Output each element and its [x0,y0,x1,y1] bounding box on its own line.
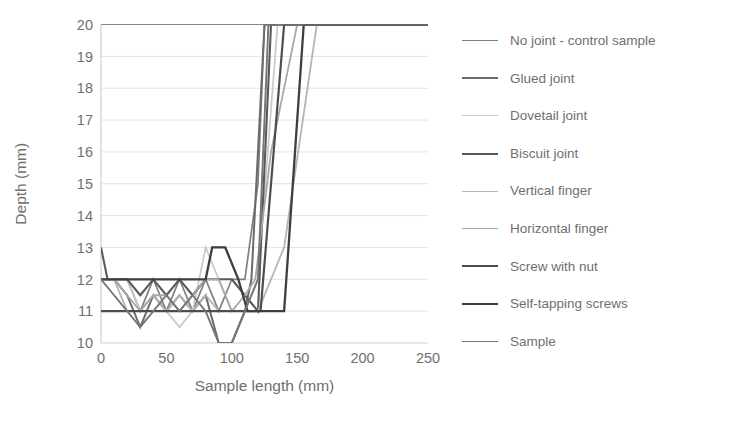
y-axis-title: Depth (mm) [12,143,29,225]
legend-swatch-line-icon [462,265,498,267]
line-chart: 1011121314151617181920050100150200250Sam… [0,0,731,423]
legend-label: Sample [510,335,556,349]
y-tick-label-15: 15 [77,176,93,192]
legend-swatch-line-icon [462,40,498,41]
x-tick-label-100: 100 [220,350,244,366]
legend-label: Glued joint [510,72,575,86]
legend-item[interactable]: Biscuit joint [462,135,727,173]
legend-swatch-line-icon [462,153,498,155]
legend-swatch-line-icon [462,115,498,116]
y-tick-label-19: 19 [77,49,93,65]
legend-item[interactable]: Glued joint [462,60,727,98]
y-tick-label-14: 14 [77,208,93,224]
x-tick-label-200: 200 [350,350,374,366]
legend-label: Self-tapping screws [510,297,628,311]
plot-svg: 1011121314151617181920050100150200250Sam… [0,0,460,423]
legend-swatch-line-icon [462,341,498,342]
legend-label: Dovetail joint [510,109,587,123]
legend-item[interactable]: Vertical finger [462,172,727,210]
legend-item[interactable]: Dovetail joint [462,97,727,135]
y-tick-label-17: 17 [77,112,93,128]
y-tick-label-11: 11 [78,303,93,319]
legend-item[interactable]: Screw with nut [462,248,727,286]
legend-label: Screw with nut [510,260,598,274]
chart-legend: No joint - control sampleGlued jointDove… [462,22,727,360]
x-tick-label-50: 50 [158,350,174,366]
legend-swatch-line-icon [462,77,498,79]
legend-item[interactable]: Horizontal finger [462,210,727,248]
legend-swatch-line-icon [462,191,498,192]
legend-swatch-line-icon [462,228,498,229]
legend-label: No joint - control sample [510,34,656,48]
legend-swatch-line-icon [462,303,498,305]
y-tick-label-20: 20 [77,17,93,33]
plot-area: 1011121314151617181920050100150200250Sam… [0,0,460,423]
legend-label: Biscuit joint [510,147,578,161]
x-tick-label-0: 0 [97,350,105,366]
y-tick-label-10: 10 [77,335,93,351]
legend-label: Vertical finger [510,184,592,198]
legend-label: Horizontal finger [510,222,608,236]
legend-item[interactable]: Sample [462,323,727,361]
y-tick-label-12: 12 [77,272,93,288]
x-tick-label-150: 150 [285,350,309,366]
y-tick-label-13: 13 [77,240,93,256]
y-tick-label-16: 16 [77,144,93,160]
x-tick-label-250: 250 [416,350,440,366]
x-axis-title: Sample length (mm) [195,377,335,394]
legend-item[interactable]: Self-tapping screws [462,285,727,323]
legend-item[interactable]: No joint - control sample [462,22,727,60]
y-tick-label-18: 18 [77,80,93,96]
